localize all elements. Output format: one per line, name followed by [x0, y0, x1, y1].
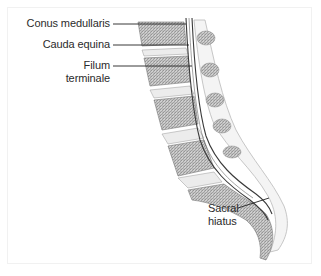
label-conus-medullaris: Conus medullaris	[10, 17, 110, 30]
label-cauda-equina: Cauda equina	[10, 38, 110, 51]
label-filum-terminale-line2: terminale	[10, 72, 110, 85]
label-sacral-hiatus-line1: Sacral	[208, 202, 239, 215]
label-sacral-hiatus-line2: hiatus	[208, 215, 237, 228]
label-filum-terminale-line1: Filum	[10, 59, 110, 72]
